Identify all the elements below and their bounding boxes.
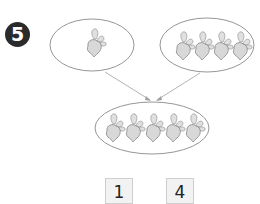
radish-icon: [106, 114, 125, 142]
radish-icon: [233, 32, 252, 60]
right-group: [160, 18, 254, 72]
radish-icon: [146, 114, 165, 142]
merge-arrows: [105, 72, 200, 101]
radish-icon: [214, 32, 233, 60]
combined-group: [95, 102, 209, 154]
left-group: [50, 19, 134, 71]
arrowhead-icon: [145, 96, 151, 101]
answer-box-left[interactable]: 1: [105, 178, 133, 204]
arrowhead-icon: [156, 96, 162, 101]
composition-diagram: [0, 0, 260, 204]
radish-icon: [126, 114, 145, 142]
answer-box-right[interactable]: 4: [166, 178, 194, 204]
radish-icon: [195, 32, 214, 60]
radish-icon: [176, 32, 195, 60]
radish-icon: [186, 114, 205, 142]
radish-icon: [87, 29, 106, 57]
radish-icon: [166, 114, 185, 142]
